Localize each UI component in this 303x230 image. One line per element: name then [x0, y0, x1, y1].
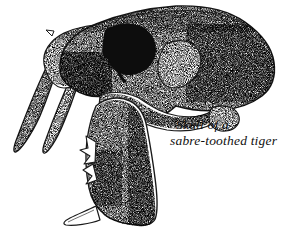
figure-root: Skull of a sabre-toothed tiger: [0, 0, 303, 230]
skull-illustration: Skull of a sabre-toothed tiger: [0, 0, 303, 230]
caption-line-1: Skull of a: [176, 117, 300, 133]
caption-line-2: sabre-toothed tiger: [170, 133, 300, 149]
caption: Skull of a sabre-toothed tiger: [176, 117, 300, 149]
